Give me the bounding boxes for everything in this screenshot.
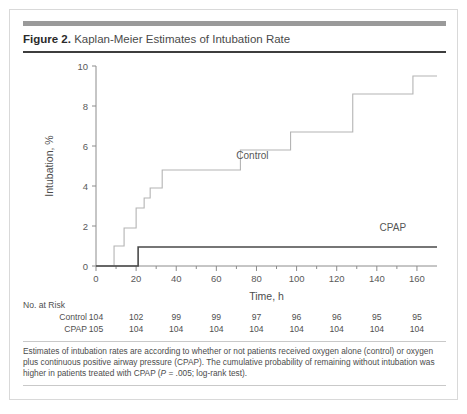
- risk-cell: 104: [362, 324, 392, 334]
- risk-cell: 105: [81, 324, 111, 334]
- risk-cell: 99: [201, 312, 231, 322]
- footnote-divider-top: [23, 341, 446, 342]
- risk-row-label-control: Control: [23, 312, 87, 322]
- risk-row-label-cpap: CPAP: [23, 324, 87, 334]
- footnote-line-3-post: = .005; log-rank test).: [166, 368, 247, 378]
- risk-cell: 104: [201, 324, 231, 334]
- x-tick-label: 120: [329, 273, 345, 284]
- x-axis-title: Time, h: [249, 290, 284, 302]
- risk-cell: 104: [241, 324, 271, 334]
- y-tick-label: 6: [83, 141, 88, 152]
- risk-cell: 104: [121, 324, 151, 334]
- x-tick-label: 60: [211, 273, 222, 284]
- risk-cell: 102: [121, 312, 151, 322]
- figure-number: Figure 2.: [23, 33, 71, 45]
- risk-cell: 104: [402, 324, 432, 334]
- series-line-cpap: [96, 247, 437, 266]
- risk-cell: 96: [282, 312, 312, 322]
- y-tick-label: 2: [83, 221, 88, 232]
- figure-footnote: Estimates of intubation rates are accord…: [23, 346, 446, 380]
- table-row: CPAP 105 104 104 104 104 104 104 104 104: [23, 324, 446, 336]
- risk-table-heading: No. at Risk: [23, 300, 65, 310]
- risk-cell: 104: [282, 324, 312, 334]
- risk-cell: 99: [161, 312, 191, 322]
- footnote-line-3-pre: patients treated with CPAP (: [57, 368, 160, 378]
- y-tick-label: 8: [83, 101, 88, 112]
- table-row: Control 104 102 99 99 97 96 96 95 95: [23, 312, 446, 324]
- footnote-divider-bottom: [23, 385, 446, 386]
- risk-cell: 96: [322, 312, 352, 322]
- series-label-control: Control: [236, 150, 268, 161]
- x-tick-label: 40: [171, 273, 182, 284]
- figure-title-text: Kaplan-Meier Estimates of Intubation Rat…: [74, 33, 290, 45]
- risk-cell: 97: [241, 312, 271, 322]
- y-tick-label: 10: [77, 61, 88, 72]
- x-tick-label: 100: [289, 273, 305, 284]
- chart-plot-area: 0246810020406080100120140160Time, hIntub…: [23, 58, 446, 388]
- risk-cell: 104: [322, 324, 352, 334]
- y-axis-title: Intubation, %: [43, 135, 55, 196]
- risk-cell: 95: [402, 312, 432, 322]
- risk-cell: 104: [81, 312, 111, 322]
- title-divider: [23, 51, 446, 53]
- series-label-cpap: CPAP: [380, 222, 407, 233]
- y-tick-label: 4: [83, 181, 88, 192]
- risk-cell: 104: [161, 324, 191, 334]
- risk-cell: 95: [362, 312, 392, 322]
- x-tick-label: 80: [251, 273, 262, 284]
- y-tick-label: 0: [83, 261, 88, 272]
- x-tick-label: 20: [131, 273, 142, 284]
- figure-panel: Figure 2. Kaplan-Meier Estimates of Intu…: [0, 0, 467, 414]
- x-tick-label: 140: [369, 273, 385, 284]
- figure-title: Figure 2. Kaplan-Meier Estimates of Intu…: [23, 30, 446, 48]
- header-accent-bar: [23, 21, 446, 26]
- x-tick-label: 0: [93, 273, 98, 284]
- x-tick-label: 160: [409, 273, 425, 284]
- series-line-control: [96, 76, 437, 266]
